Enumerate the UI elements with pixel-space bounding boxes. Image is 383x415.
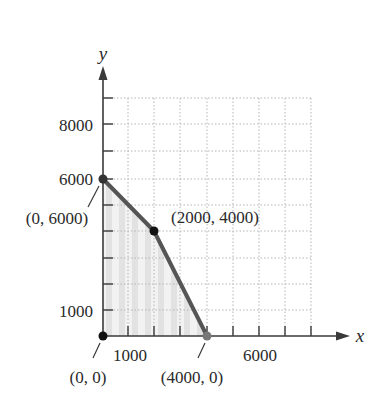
point-label-2000-4000: (2000, 4000) [171, 208, 259, 227]
x-axis-label: x [355, 325, 365, 346]
linear-programming-chart: y x 8000 6000 1000 1000 6000 (0, 6000) (… [0, 0, 383, 415]
x-tick-label-1000: 1000 [113, 346, 147, 365]
y-tick-label-1000: 1000 [59, 302, 93, 321]
point-0-6000 [99, 175, 108, 184]
y-tick-label-8000: 8000 [59, 116, 93, 135]
point-label-4000-0: (4000, 0) [161, 368, 223, 387]
y-axis-label: y [97, 43, 108, 64]
point-0-0 [99, 332, 108, 341]
y-axis-arrow-icon [99, 66, 108, 80]
x-axis-arrow-icon [336, 332, 350, 341]
point-label-0-6000: (0, 6000) [26, 209, 88, 228]
point-2000-4000 [150, 227, 159, 236]
x-tick-label-6000: 6000 [243, 346, 277, 365]
point-4000-0 [203, 332, 212, 341]
point-label-0-0: (0, 0) [70, 368, 107, 387]
y-tick-label-6000: 6000 [59, 170, 93, 189]
